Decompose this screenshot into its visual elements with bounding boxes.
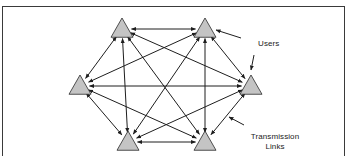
user-1-triangle-icon (111, 18, 133, 37)
user-6-triangle-icon (194, 131, 216, 150)
users-label: Users (258, 39, 279, 49)
user-nodes (69, 18, 262, 150)
user-4-triangle-icon (240, 75, 262, 94)
user-2-triangle-icon (194, 18, 216, 37)
transmission-links-label-line2: Links (240, 142, 310, 152)
label-pointers (216, 30, 254, 125)
transmission-link (137, 90, 243, 138)
transmission-link (86, 93, 122, 135)
transmission-link (131, 33, 243, 82)
transmission-link (211, 36, 245, 78)
user-5-triangle-icon (117, 131, 139, 150)
transmission-links-label: Transmission Links (240, 132, 310, 152)
transmission-link (89, 33, 197, 82)
transmission-link (89, 90, 197, 138)
user-3-triangle-icon (69, 75, 91, 94)
users-pointer-arrow-2 (251, 55, 254, 70)
transmission-links (86, 29, 245, 142)
transmission-link (86, 37, 117, 79)
users-pointer-arrow-1 (216, 30, 241, 38)
transmission-links-label-line1: Transmission (240, 132, 310, 142)
links-pointer-arrow (229, 117, 244, 125)
transmission-link (211, 93, 245, 134)
